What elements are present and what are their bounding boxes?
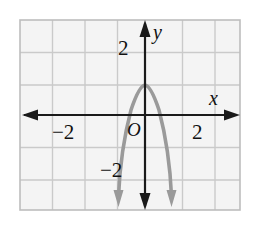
x-axis-label: x xyxy=(209,88,218,108)
y-axis-label: y xyxy=(153,22,162,42)
coordinate-plane-svg xyxy=(0,0,262,228)
y-tick-label-negative-2: −2 xyxy=(100,160,122,181)
x-tick-label-2: 2 xyxy=(192,122,203,143)
y-tick-label-2: 2 xyxy=(118,38,129,59)
x-tick-label-negative-2: −2 xyxy=(52,122,74,143)
origin-label: O xyxy=(127,120,141,139)
